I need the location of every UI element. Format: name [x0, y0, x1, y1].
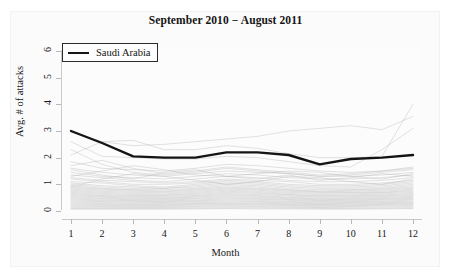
- y-tick-label: 4: [42, 96, 53, 110]
- x-tick-label: 11: [372, 228, 392, 239]
- x-tick-label: 7: [248, 228, 268, 239]
- legend: Saudi Arabia: [62, 43, 158, 62]
- series-lines: [62, 48, 422, 214]
- background-series-line: [71, 128, 413, 167]
- x-tick-label: 8: [279, 228, 299, 239]
- x-tick-label: 2: [92, 228, 112, 239]
- x-tick-mark: [320, 219, 321, 224]
- x-tick-mark: [71, 219, 72, 224]
- x-tick-mark: [133, 219, 134, 224]
- y-tick-mark: [56, 211, 61, 212]
- y-tick-label: 6: [42, 43, 53, 57]
- background-series-line: [71, 104, 413, 157]
- x-tick-label: 1: [61, 228, 81, 239]
- y-axis-tick-labels: 0123456: [38, 0, 54, 278]
- x-tick-label: 6: [216, 228, 236, 239]
- y-tick-mark: [56, 104, 61, 105]
- x-tick-mark: [102, 219, 103, 224]
- y-tick-mark: [56, 131, 61, 132]
- x-axis-line: [62, 219, 422, 220]
- background-series-line: [71, 116, 413, 145]
- y-tick-label: 3: [42, 123, 53, 137]
- y-tick-label: 2: [42, 149, 53, 163]
- x-tick-label: 5: [185, 228, 205, 239]
- x-tick-mark: [413, 219, 414, 224]
- x-tick-mark: [289, 219, 290, 224]
- y-tick-mark: [56, 184, 61, 185]
- y-tick-label: 0: [42, 203, 53, 217]
- background-series-line: [71, 162, 413, 173]
- y-tick-label: 1: [42, 176, 53, 190]
- x-tick-label: 3: [123, 228, 143, 239]
- x-tick-mark: [351, 219, 352, 224]
- plot-area: [62, 48, 422, 214]
- x-tick-label: 4: [154, 228, 174, 239]
- x-tick-mark: [195, 219, 196, 224]
- y-tick-label: 5: [42, 69, 53, 83]
- highlight-series-line: [71, 131, 413, 164]
- background-series-line: [71, 208, 413, 209]
- x-tick-mark: [382, 219, 383, 224]
- x-tick-label: 9: [310, 228, 330, 239]
- y-axis-title: Avg. # of attacks: [14, 47, 25, 157]
- legend-line-swatch: [68, 52, 89, 54]
- x-tick-label: 12: [403, 228, 423, 239]
- y-tick-mark: [56, 78, 61, 79]
- legend-label: Saudi Arabia: [96, 47, 151, 58]
- background-series-line: [71, 150, 413, 177]
- x-tick-mark: [258, 219, 259, 224]
- x-tick-mark: [164, 219, 165, 224]
- chart-title: September 2010 − August 2011: [0, 14, 451, 26]
- background-series-line: [71, 207, 413, 208]
- x-tick-mark: [226, 219, 227, 224]
- chart-figure: September 2010 − August 2011 Avg. # of a…: [0, 0, 451, 278]
- y-tick-mark: [56, 158, 61, 159]
- y-tick-mark: [56, 51, 61, 52]
- x-tick-label: 10: [341, 228, 361, 239]
- x-axis-title: Month: [0, 247, 451, 258]
